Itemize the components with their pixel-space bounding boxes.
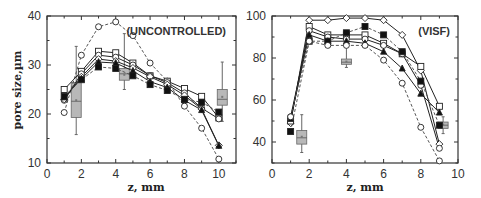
y-tick-label: 20 <box>28 107 42 121</box>
marker-square-filled <box>216 109 222 115</box>
marker-circle-open <box>436 145 442 151</box>
x-tick-label: 4 <box>112 167 119 181</box>
left-y-axis-title: pore size,µm <box>11 50 24 129</box>
series-line-open-square-1 <box>64 51 219 118</box>
marker-square-open <box>199 93 205 99</box>
y-tick-label: 10 <box>28 156 42 170</box>
marker-circle-open <box>418 124 424 130</box>
marker-square-filled <box>399 49 405 55</box>
marker-square-filled <box>199 99 205 105</box>
marker-triangle-filled <box>399 65 405 71</box>
x-tick-label: 2 <box>78 167 85 181</box>
marker-circle-open <box>181 103 187 109</box>
marker-circle-open <box>216 156 222 162</box>
marker-circle-open <box>216 116 222 122</box>
marker-square-filled <box>418 78 424 84</box>
y-tick-label: 30 <box>28 58 42 72</box>
y-tick-label: 40 <box>253 135 267 149</box>
marker-circle-open <box>306 38 312 44</box>
marker-square-filled <box>78 77 84 83</box>
marker-square-filled <box>181 96 187 102</box>
marker-circle-open <box>288 114 294 120</box>
marker-square-filled <box>147 82 153 88</box>
y-tick-label: 40 <box>28 9 42 23</box>
marker-diamond-open <box>306 17 313 24</box>
marker-circle-open <box>362 42 368 48</box>
left-panel-annotation: (UNCONTROLLED) <box>126 25 226 37</box>
x-tick-label: 0 <box>44 167 51 181</box>
marker-square-filled <box>288 129 294 135</box>
marker-square-filled <box>164 87 170 93</box>
x-tick-label: 0 <box>269 167 276 181</box>
right-panel-annotation: (VISF) <box>418 25 450 37</box>
marker-circle-open <box>96 24 102 30</box>
x-tick-label: 2 <box>306 167 313 181</box>
series-line-open-circle-dashed <box>291 41 440 161</box>
left-x-axis-title: z, mm <box>127 181 165 194</box>
marker-square-open <box>418 63 424 69</box>
x-tick-label: 8 <box>417 167 424 181</box>
marker-circle-open <box>381 57 387 63</box>
x-tick-label: 10 <box>212 167 226 181</box>
marker-square-filled <box>130 73 136 79</box>
marker-circle-open <box>399 80 405 86</box>
marker-square-filled <box>61 93 67 99</box>
series-line-filled-square-dashed <box>64 67 219 112</box>
marker-circle-open <box>61 110 67 116</box>
marker-circle-open <box>78 52 84 58</box>
right-plot-visf: 0246810406080100 (VISF) z, mm <box>246 9 465 194</box>
marker-square-open <box>61 87 67 93</box>
marker-diamond-open <box>324 17 331 24</box>
x-tick-label: 6 <box>147 167 154 181</box>
left-data-series <box>61 19 223 162</box>
y-tick-label: 100 <box>246 9 266 23</box>
y-tick-label: 60 <box>253 93 267 107</box>
right-x-axis-title: z, mm <box>346 181 384 194</box>
marker-square-filled <box>343 30 349 36</box>
marker-square-filled <box>96 64 102 70</box>
x-tick-label: 4 <box>343 167 350 181</box>
chart-figure: 024681010203040 (UNCONTROLLED) z, mm por… <box>0 0 481 198</box>
left-plot-uncontrolled: 024681010203040 (UNCONTROLLED) z, mm por… <box>11 9 236 194</box>
x-tick-label: 10 <box>451 167 465 181</box>
marker-circle-open <box>199 125 205 131</box>
marker-square-filled <box>436 122 442 128</box>
marker-circle-open <box>147 60 153 66</box>
marker-circle-open <box>343 42 349 48</box>
marker-circle-open <box>325 42 331 48</box>
x-tick-label: 6 <box>380 167 387 181</box>
marker-circle-open <box>113 19 119 25</box>
marker-square-filled <box>381 32 387 38</box>
series-line-open-circle-dashed <box>64 22 219 159</box>
x-tick-label: 8 <box>181 167 188 181</box>
marker-square-filled <box>113 65 119 71</box>
y-tick-label: 80 <box>253 51 267 65</box>
marker-circle-open <box>436 158 442 164</box>
marker-square-filled <box>362 24 368 30</box>
